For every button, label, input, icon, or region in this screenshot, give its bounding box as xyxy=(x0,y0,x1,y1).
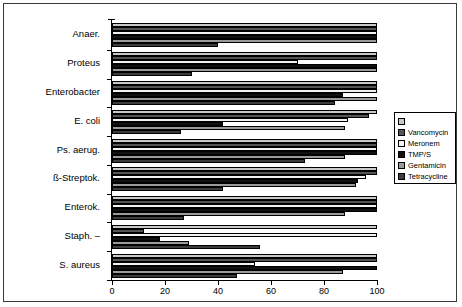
legend-item: Tetracycline xyxy=(398,171,452,182)
category-label: Enterobacter xyxy=(46,87,100,97)
chart-frame: VancomycinMeronemTMP/SGentamicinTetracyc… xyxy=(3,3,457,302)
legend-swatch-series-1 xyxy=(398,118,405,125)
bar-tetracycline xyxy=(112,216,184,220)
x-axis-line xyxy=(111,280,378,281)
category-label: Anaer. xyxy=(73,29,100,39)
x-axis-tick xyxy=(165,281,166,285)
category-label: Proteus xyxy=(67,58,100,68)
legend-swatch-series-4 xyxy=(398,151,405,158)
bar-tetracycline xyxy=(112,130,181,134)
y-axis-tick xyxy=(107,222,112,223)
bar-tetracycline xyxy=(112,245,260,249)
y-axis-tick xyxy=(107,79,112,80)
x-axis-tick xyxy=(112,281,113,285)
x-axis-tick xyxy=(324,281,325,285)
legend-item-label: TMP/S xyxy=(408,150,431,159)
x-axis-tick-label: 100 xyxy=(357,286,397,296)
legend-item-label: Gentamicin xyxy=(408,161,446,170)
x-axis-tick-label: 40 xyxy=(198,286,238,296)
bar-series-1 xyxy=(112,225,377,229)
y-axis-tick xyxy=(107,136,112,137)
legend-item: Vancomycin xyxy=(398,127,452,138)
x-axis-tick xyxy=(377,281,378,285)
legend-item: Gentamicin xyxy=(398,160,452,171)
category-label: Enterok. xyxy=(65,202,100,212)
category-label: Staph. – xyxy=(65,231,100,241)
x-axis-tick-label: 20 xyxy=(145,286,185,296)
y-axis-tick xyxy=(107,50,112,51)
y-axis-tick xyxy=(107,251,112,252)
legend-item xyxy=(398,116,452,127)
category-label: S. aureus xyxy=(59,260,100,270)
y-axis-tick xyxy=(107,194,112,195)
bar-tetracycline xyxy=(112,72,192,76)
bar-tetracycline xyxy=(112,187,223,191)
legend-item: TMP/S xyxy=(398,149,452,160)
legend-swatch-series-5 xyxy=(398,162,405,169)
bar-tetracycline xyxy=(112,274,237,278)
y-axis-tick xyxy=(107,280,112,281)
legend-item: Meronem xyxy=(398,138,452,149)
chart-legend: VancomycinMeronemTMP/SGentamicinTetracyc… xyxy=(394,112,456,184)
legend-swatch-series-3 xyxy=(398,140,405,147)
legend-swatch-series-6 xyxy=(398,173,405,180)
y-axis-tick xyxy=(107,165,112,166)
category-label: ß-Streptok. xyxy=(53,173,100,183)
legend-swatch-series-2 xyxy=(398,129,405,136)
x-axis-tick-label: 0 xyxy=(92,286,132,296)
bar-tetracycline xyxy=(112,101,335,105)
bar-tetracycline xyxy=(112,43,218,47)
x-axis-tick xyxy=(218,281,219,285)
legend-item-label: Meronem xyxy=(408,139,440,148)
bar-tetracycline xyxy=(112,159,305,163)
x-axis-tick xyxy=(271,281,272,285)
legend-item-label: Vancomycin xyxy=(408,128,448,137)
legend-item-label: Tetracycline xyxy=(408,172,448,181)
category-label: Ps. aerug. xyxy=(57,145,100,155)
category-label: E. coli xyxy=(74,116,100,126)
x-axis-tick-label: 80 xyxy=(304,286,344,296)
y-axis-tick xyxy=(107,107,112,108)
x-axis-tick-label: 60 xyxy=(251,286,291,296)
